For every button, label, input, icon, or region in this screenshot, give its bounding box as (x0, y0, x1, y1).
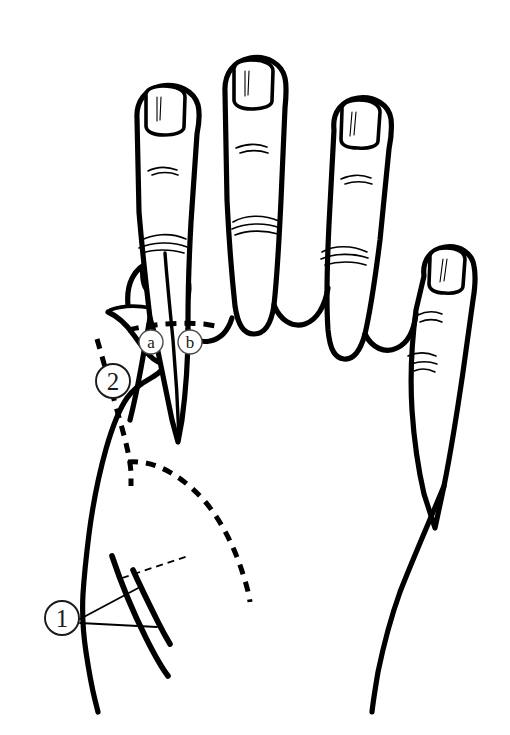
hand-anatomy-figure: 1 2 a b (0, 0, 510, 735)
marker-2-label: 2 (107, 368, 120, 395)
marker-b-label: b (186, 333, 195, 352)
marker-1-label: 1 (56, 605, 69, 632)
hand-diagram-svg: 1 2 a b (0, 0, 510, 735)
ring-nail (341, 100, 380, 148)
little-nail (429, 248, 465, 293)
middle-nail (234, 60, 273, 109)
annotation-marker-1: 1 (45, 601, 79, 635)
annotation-marker-2: 2 (96, 364, 130, 398)
marker-a-label: a (147, 333, 155, 352)
annotation-marker-b: b (178, 330, 202, 354)
index-nail (146, 86, 185, 135)
annotation-marker-a: a (139, 330, 163, 354)
